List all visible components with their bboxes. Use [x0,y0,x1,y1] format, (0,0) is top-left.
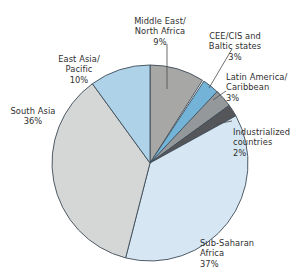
pie-label-text: CEE/CIS and Baltic states [209,31,261,51]
pie-label-percent: 2% [233,148,305,158]
pie-label-text: Middle East/ North Africa [134,16,186,36]
pie-label-middle-east-north-africa: Middle East/ North Africa 9% [118,6,202,57]
pie-label-south-asia: South Asia 36% [2,96,64,137]
pie-label-percent: 3% [198,52,272,62]
pie-label-sub-saharan-africa: Sub-Saharan Africa 37% [200,228,276,278]
pie-label-east-asia-pacific: East Asia/ Pacific 10% [44,44,114,95]
pie-label-text: East Asia/ Pacific [58,54,100,74]
pie-chart: Middle East/ North Africa 9% CEE/CIS and… [0,0,306,278]
pie-label-latin-america-caribbean: Latin America/ Caribbean 3% [226,62,304,113]
pie-label-percent: 3% [226,93,304,103]
pie-label-text: Sub-Saharan Africa [200,238,254,258]
pie-label-text: Industrialized countries [233,127,290,147]
pie-label-percent: 9% [118,37,202,47]
pie-label-percent: 37% [200,259,276,269]
pie-label-text: South Asia [11,106,56,116]
pie-label-industrialized-countries: Industrialized countries 2% [233,117,305,168]
pie-label-text: Latin America/ Caribbean [226,72,287,92]
pie-label-percent: 10% [44,75,114,85]
pie-label-percent: 36% [2,116,64,126]
